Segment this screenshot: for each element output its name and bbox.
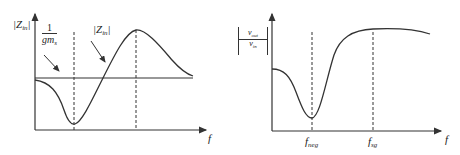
gain-curve xyxy=(272,29,430,118)
right-plot xyxy=(272,14,441,131)
left-x-axis-label: f xyxy=(208,133,211,144)
left-plot xyxy=(35,14,206,130)
arrow-to-ref-line xyxy=(44,55,59,71)
left-y-axis-label: |Zin| xyxy=(13,19,31,32)
ref-line-label-1-over-gms: 1 gms xyxy=(42,22,57,48)
zin-curve xyxy=(35,30,193,124)
x-tick-fsg: fsg xyxy=(368,136,377,149)
arrow-to-zin-curve xyxy=(91,41,105,62)
right-y-axis-label: vout vin xyxy=(238,27,268,55)
zin-curve-label: |Zin| xyxy=(93,24,111,37)
x-tick-fneg: fneg xyxy=(305,136,318,149)
right-x-axis-label: f xyxy=(445,134,448,145)
diagram-canvas xyxy=(0,0,460,155)
